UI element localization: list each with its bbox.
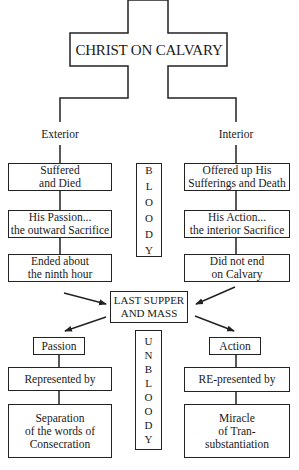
- box-text: of Tran-: [205, 425, 269, 438]
- box-text: Suffered: [39, 164, 81, 177]
- box-text: and Died: [39, 177, 81, 190]
- unbloody-box: U N B L O O D Y: [135, 330, 162, 450]
- separation-consecration-box: Separationof the words ofConsecration: [8, 404, 112, 458]
- re-presented-by-box: RE-presented by: [184, 367, 290, 392]
- box-text: His Action...: [190, 211, 285, 224]
- suffered-died-box: Sufferedand Died: [8, 163, 112, 191]
- box-text: Consecration: [25, 438, 95, 451]
- box-text: His Passion...: [11, 211, 109, 224]
- box-text: the ninth hour: [28, 268, 93, 281]
- box-text: Ended about: [28, 255, 93, 268]
- box-text: Did not end: [210, 255, 264, 268]
- transubstantiation-box: Miracleof Tran-substantiation: [184, 404, 290, 458]
- diagram-title: CHRIST ON CALVARY: [72, 35, 226, 65]
- letter: B: [145, 162, 152, 178]
- passion-box: Passion: [33, 337, 85, 355]
- box-text: LAST SUPPER: [114, 294, 184, 307]
- letter: O: [145, 194, 153, 210]
- box-text: the interior Sacrifice: [190, 224, 285, 237]
- action-interior-box: His Action...the interior Sacrifice: [184, 210, 290, 238]
- letter: U: [145, 334, 153, 348]
- letter: O: [145, 210, 153, 226]
- box-text: Sufferings and Death: [188, 177, 286, 190]
- action-box: Action: [209, 337, 261, 355]
- letter: L: [146, 178, 153, 194]
- offered-up-box: Offered up HisSufferings and Death: [184, 163, 290, 191]
- represented-by-box: Represented by: [8, 367, 112, 391]
- letter: B: [145, 362, 152, 376]
- letter: Y: [145, 242, 153, 258]
- letter: O: [145, 390, 153, 404]
- passion-outward-box: His Passion...the outward Sacrifice: [8, 210, 112, 238]
- box-text: Separation: [25, 412, 95, 425]
- exterior-label: Exterior: [25, 128, 95, 140]
- letter: D: [145, 418, 153, 432]
- interior-label: Interior: [201, 128, 271, 140]
- box-text: of the words of: [25, 425, 95, 438]
- box-text: substantiation: [205, 438, 269, 451]
- letter: D: [145, 226, 153, 242]
- letter: O: [145, 404, 153, 418]
- box-text: AND MASS: [114, 307, 184, 320]
- box-text: the outward Sacrifice: [11, 224, 109, 237]
- ninth-hour-box: Ended aboutthe ninth hour: [8, 254, 112, 282]
- last-supper-mass-box: LAST SUPPERAND MASS: [110, 291, 188, 323]
- letter: L: [145, 376, 152, 390]
- box-text: on Calvary: [210, 268, 264, 281]
- bloody-box: B L O O D Y: [136, 163, 162, 257]
- box-text: Miracle: [205, 412, 269, 425]
- not-end-calvary-box: Did not endon Calvary: [184, 254, 290, 282]
- letter: N: [145, 348, 153, 362]
- letter: Y: [145, 432, 153, 446]
- box-text: Offered up His: [188, 164, 286, 177]
